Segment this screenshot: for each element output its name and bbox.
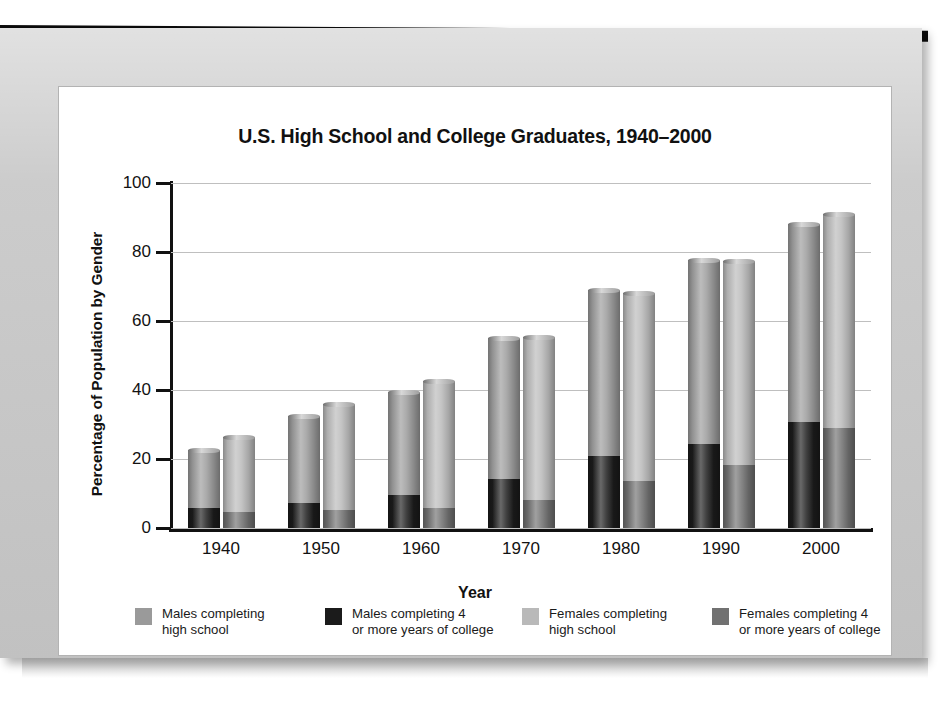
- y-axis-tick-label: 60: [105, 311, 151, 331]
- x-axis-title: Year: [59, 584, 891, 602]
- legend-swatch-1: [325, 608, 342, 625]
- x-axis-tick-label-1960: 1960: [376, 539, 466, 559]
- plot-area: [171, 183, 871, 528]
- bar-group-2000: [171, 183, 871, 528]
- x-axis-tick-label-2000: 2000: [776, 539, 866, 559]
- y-axis-tick: [156, 251, 171, 254]
- chart-card: U.S. High School and College Graduates, …: [58, 86, 892, 656]
- bar-male-2000-college-segment: [788, 422, 820, 528]
- y-axis-tick-label: 100: [105, 173, 151, 193]
- legend-swatch-0: [135, 608, 152, 625]
- bar-female-2000-college-segment: [823, 428, 855, 528]
- y-axis-tick-label: 20: [105, 449, 151, 469]
- bar-male-2000-cylinder-cap: [788, 222, 820, 227]
- legend-item-0: Males completing high school: [135, 606, 265, 637]
- legend-label-1: Males completing 4 or more years of coll…: [352, 606, 493, 637]
- x-axis-tick-label-1950: 1950: [276, 539, 366, 559]
- gridline: [171, 528, 871, 529]
- bar-female-2000-high-school-segment: [823, 214, 855, 428]
- bar-female-2000-cylinder-cap: [823, 212, 855, 217]
- chart-legend: Males completing high schoolMales comple…: [75, 606, 891, 654]
- legend-item-1: Males completing 4 or more years of coll…: [325, 606, 493, 637]
- legend-label-2: Females completing high school: [549, 606, 667, 637]
- y-axis-tick: [156, 182, 171, 185]
- bar-male-2000-high-school-segment: [788, 224, 820, 422]
- y-axis-tick: [156, 458, 171, 461]
- bar-male-2000: [788, 224, 820, 528]
- legend-label-0: Males completing high school: [162, 606, 265, 637]
- legend-swatch-2: [522, 608, 539, 625]
- legend-item-3: Females completing 4 or more years of co…: [712, 606, 880, 637]
- legend-label-3: Females completing 4 or more years of co…: [739, 606, 880, 637]
- y-axis-tick: [156, 389, 171, 392]
- y-axis-tick: [156, 527, 171, 530]
- y-axis-tick-label: 40: [105, 380, 151, 400]
- legend-item-2: Females completing high school: [522, 606, 667, 637]
- x-axis-tick-label-1990: 1990: [676, 539, 766, 559]
- y-axis-tick: [156, 320, 171, 323]
- chart-title: U.S. High School and College Graduates, …: [59, 125, 891, 148]
- y-axis-labels: 020406080100: [99, 87, 151, 655]
- page-bottom-shadow: [22, 658, 928, 678]
- bar-female-2000: [823, 214, 855, 528]
- x-axis-tick-label-1970: 1970: [476, 539, 566, 559]
- figure-panel: U.S. High School and College Graduates, …: [0, 28, 922, 658]
- legend-swatch-3: [712, 608, 729, 625]
- y-axis-tick-label: 80: [105, 242, 151, 262]
- x-axis-tick-label-1980: 1980: [576, 539, 666, 559]
- scanned-page: U.S. High School and College Graduates, …: [0, 0, 951, 707]
- x-axis-tick-label-1940: 1940: [176, 539, 266, 559]
- y-axis-tick-label: 0: [105, 518, 151, 538]
